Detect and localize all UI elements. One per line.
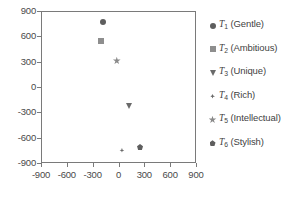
y-tick-mark [37,36,41,37]
legend-item-gentle[interactable]: T1 (Gentle) [206,14,300,38]
y-tick-label: 600 [0,31,36,41]
y-tick-label: -600 [0,133,36,143]
x-tick-mark [144,163,145,167]
y-tick-mark [37,11,41,12]
legend-item-label: T1 (Gentle) [219,19,264,32]
legend-item-intellectual[interactable]: T5 (Intellectual) [206,108,300,132]
y-tick-label: 0 [0,82,36,92]
circle-marker-icon [206,19,219,32]
x-tick-mark [170,163,171,167]
data-point-ambitious[interactable] [98,38,104,44]
legend-item-label: T5 (Intellectual) [219,113,281,126]
y-tick-label: -900 [0,158,36,168]
x-tick-mark [196,163,197,167]
diamond-marker-icon [206,90,219,103]
legend-item-label: T3 (Unique) [219,66,266,79]
x-tick-label: 900 [176,170,216,180]
scatter-chart-figure: 9006003000-300-600-900 -900-600-30003006… [0,0,300,197]
y-tick-mark [37,62,41,63]
square-marker-icon [206,43,219,56]
legend-item-ambitious[interactable]: T2 (Ambitious) [206,38,300,62]
data-point-gentle[interactable] [100,19,106,25]
data-point-unique[interactable] [126,103,132,109]
y-tick-label: 900 [0,6,36,16]
legend-item-label: T2 (Ambitious) [219,43,277,56]
legend-item-label: T4 (Rich) [219,90,255,103]
legend-item-label: T6 (Stylish) [219,137,264,150]
plot-area [41,11,196,163]
y-tick-mark [37,138,41,139]
y-tick-mark [37,112,41,113]
legend-item-rich[interactable]: T4 (Rich) [206,85,300,109]
star-marker-icon [206,113,219,126]
x-tick-mark [93,163,94,167]
legend-item-unique[interactable]: T3 (Unique) [206,61,300,85]
legend-item-stylish[interactable]: T6 (Stylish) [206,132,300,156]
y-tick-label: 300 [0,57,36,67]
pentagon-marker-icon [206,137,219,150]
x-tick-mark [67,163,68,167]
y-tick-label: -300 [0,107,36,117]
chart-legend: T1 (Gentle)T2 (Ambitious)T3 (Unique)T4 (… [206,14,300,155]
triangle-marker-icon [206,66,219,79]
y-tick-mark [37,87,41,88]
x-tick-mark [119,163,120,167]
x-tick-mark [41,163,42,167]
